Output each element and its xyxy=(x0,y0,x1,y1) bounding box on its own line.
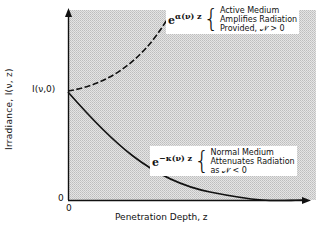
growth-line-1: Active Medium xyxy=(220,6,297,15)
decay-annotation: e−κ(ν) z { Normal Medium Attenuates Radi… xyxy=(150,146,297,176)
growth-expression: eα(ν) z xyxy=(168,11,202,27)
x-origin-label: 0 xyxy=(66,203,72,213)
decay-line-2: Attenuates Radiation xyxy=(210,157,294,166)
growth-annotation: eα(ν) z { Active Medium Amplifies Radiat… xyxy=(166,4,299,34)
brace-icon: { xyxy=(204,7,219,31)
brace-icon: { xyxy=(194,149,209,173)
decay-expression: e−κ(ν) z xyxy=(152,153,192,169)
y-axis-label: Irradiance, I(ν, z) xyxy=(4,68,14,150)
decay-line-1: Normal Medium xyxy=(210,148,294,157)
y-origin-label: 0 xyxy=(58,193,64,203)
decay-line-3: as 𝒩 < 0 xyxy=(210,166,294,175)
x-axis-label: Penetration Depth, z xyxy=(115,212,208,222)
growth-line-3: Provided, 𝒩 > 0 xyxy=(220,24,297,33)
i0-tick-label: I(ν,0) xyxy=(32,84,55,94)
growth-line-2: Amplifies Radiation xyxy=(220,15,297,24)
diagram-canvas xyxy=(0,0,318,228)
